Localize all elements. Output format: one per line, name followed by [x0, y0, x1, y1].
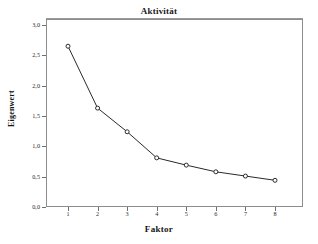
data-point-marker — [66, 44, 70, 48]
eigenvalue-line — [68, 46, 275, 180]
data-point-marker — [96, 106, 100, 110]
data-point-marker — [243, 174, 247, 178]
data-point-marker — [214, 170, 218, 174]
data-point-marker — [273, 178, 277, 182]
data-series-layer — [0, 0, 318, 244]
scree-plot-figure: Aktivität Eigenwert Faktor 0,00,51,01,52… — [0, 0, 318, 244]
data-point-marker — [155, 156, 159, 160]
data-point-marker — [125, 130, 129, 134]
data-point-marker — [184, 163, 188, 167]
